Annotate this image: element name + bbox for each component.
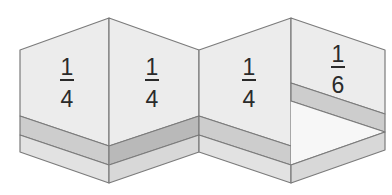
fraction-2-numerator: 1 <box>146 54 159 80</box>
fraction-4-numerator: 1 <box>332 41 345 67</box>
fraction-3-numerator: 1 <box>243 54 256 80</box>
fraction-4-denominator: 6 <box>332 72 345 98</box>
fraction-panels-diagram: 1 4 1 4 1 4 1 6 <box>0 0 392 195</box>
fraction-1-bar <box>60 79 74 81</box>
fraction-1-numerator: 1 <box>61 54 74 80</box>
fraction-3-bar <box>242 79 256 81</box>
fraction-4-bar <box>331 66 345 68</box>
fraction-3-denominator: 4 <box>243 86 256 112</box>
fraction-1-denominator: 4 <box>61 86 74 112</box>
fraction-2-denominator: 4 <box>146 86 159 112</box>
fraction-2-bar <box>145 79 159 81</box>
